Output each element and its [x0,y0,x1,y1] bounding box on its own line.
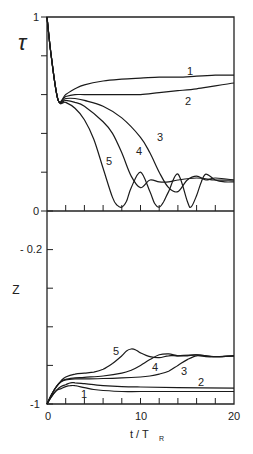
top-curve-label-5: 5 [106,155,112,167]
figure: 1 0 τ 1 2 3 4 5 - 0.2 -1 Z 0 10 20 t / T… [0,0,253,454]
bottom-panel-frame [47,211,234,404]
top-curve-label-3: 3 [157,131,163,143]
x-axis-label: t / T R [130,428,164,442]
x-axis-label-main: t / T [130,428,149,440]
top-series-1 [47,17,234,102]
top-panel: 1 0 τ 1 2 3 4 5 [18,11,234,217]
top-curve-label-2: 2 [185,95,191,107]
top-curve-label-1: 1 [187,65,193,77]
top-series-4 [47,17,234,188]
bottom-curve-label-3: 3 [181,365,187,377]
top-series-2 [47,17,234,103]
top-x-ticks [66,205,216,211]
bottom-y-tick-label-m0.2: - 0.2 [20,243,42,255]
bottom-curve-label-5: 5 [113,345,119,357]
x-axis-label-subscript: R [159,435,164,442]
top-y-axis-label: τ [18,30,28,55]
bottom-x-ticks [66,398,216,404]
top-curve-label-4: 4 [136,145,142,157]
x-tick-label-10: 10 [135,410,147,422]
top-y-ticks [41,17,47,211]
bottom-curves [47,349,234,404]
top-curves [47,17,234,207]
bottom-y-axis-label: Z [12,283,19,297]
bottom-series-3 [47,356,234,404]
bottom-y-tick-label-m1: -1 [30,398,40,410]
top-y-tick-label-0: 0 [33,205,39,217]
top-series-3 [47,17,234,192]
bottom-curve-label-4: 4 [152,361,158,373]
top-panel-frame [47,17,234,211]
x-tick-label-20: 20 [228,410,240,422]
bottom-panel: - 0.2 -1 Z 0 10 20 t / T R 1 2 3 4 5 [12,211,240,442]
top-y-tick-label-1: 1 [33,11,39,23]
bottom-curve-label-2: 2 [198,376,204,388]
bottom-y-ticks [47,211,53,404]
bottom-curve-label-1: 1 [81,388,87,400]
x-tick-label-0: 0 [45,410,51,422]
